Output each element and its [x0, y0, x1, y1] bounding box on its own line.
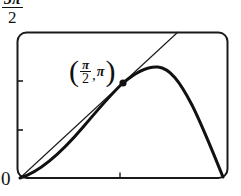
annotation-comma: , — [92, 68, 97, 83]
y-max-numerator: 3π — [2, 0, 23, 8]
plot-canvas — [0, 0, 241, 196]
plot-frame — [18, 33, 228, 179]
y-max-fraction: 3π 2 — [2, 0, 23, 26]
annotation-x-numerator: π — [80, 58, 91, 72]
y-axis-max-label: 3π 2 — [2, 0, 23, 26]
annotation-close-paren: ) — [106, 62, 116, 81]
annotation-open-paren: ( — [69, 62, 79, 81]
y-max-denominator: 2 — [2, 8, 23, 26]
point-annotation: ( π 2 , π ) — [69, 58, 116, 86]
annotation-y-value: π — [97, 65, 106, 79]
origin-label: 0 — [1, 169, 11, 188]
tangent-line-series — [20, 32, 178, 178]
tangent-point-marker — [119, 79, 126, 86]
math-graph-figure: 3π 2 0 ( π 2 , π ) — [0, 0, 241, 196]
annotation-x-fraction: π 2 — [80, 58, 91, 86]
annotation-x-denominator: 2 — [80, 72, 91, 86]
